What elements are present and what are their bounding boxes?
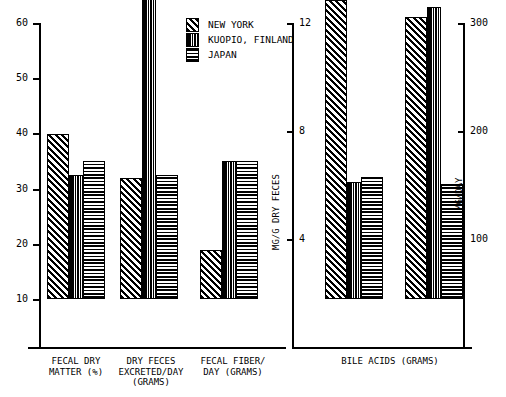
bar-kuopio-finland	[427, 7, 441, 299]
right-panel-ylabel-right: MG/DAY	[455, 177, 464, 210]
bar-new-york	[405, 17, 427, 299]
xlabel-dry-feces-excreted: DRY FECES EXCRETED/DAY (GRAMS)	[108, 356, 194, 388]
bar-group-bile-acids-mg-per-day	[0, 0, 506, 348]
xlabel-bile-acids: BILE ACIDS (GRAMS)	[320, 356, 460, 367]
xlabel-fecal-dry-matter: FECAL DRY MATTER (%)	[33, 356, 119, 377]
right-panel-ylabel-left: MG/G DRY FECES	[272, 174, 281, 250]
xlabel-fecal-fiber: FECAL FIBER/ DAY (GRAMS)	[188, 356, 278, 377]
chart-figure: 60 50 40 30 20 10 FECAL DRY M	[0, 0, 506, 397]
